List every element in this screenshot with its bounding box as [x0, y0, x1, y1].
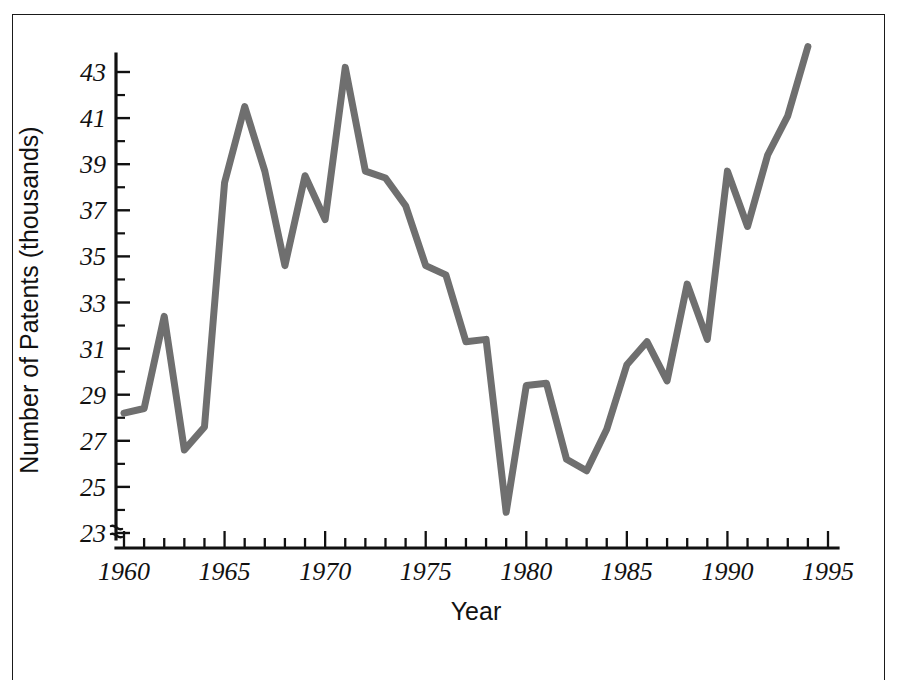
x-tick-label: 1985	[601, 557, 653, 586]
y-tick-label: 41	[80, 104, 106, 133]
y-tick-label: 29	[80, 381, 106, 410]
x-tick-label: 1960	[98, 557, 150, 586]
y-tick-label: 27	[80, 427, 107, 456]
y-tick-label: 23	[80, 519, 106, 548]
series-line-number-of-patents	[124, 47, 808, 513]
y-tick-label: 37	[79, 196, 107, 225]
x-axis-title: Year	[451, 597, 502, 625]
x-tick-label: 1965	[199, 557, 251, 586]
y-axis: 2325272931333537394143	[79, 54, 130, 548]
y-tick-label: 25	[80, 473, 106, 502]
y-tick-label: 39	[79, 150, 106, 179]
y-tick-label: 33	[79, 289, 106, 318]
y-tick-label: 35	[79, 242, 106, 271]
line-chart: 2325272931333537394143 19601965197019751…	[0, 0, 898, 680]
x-axis: 19601965197019751980198519901995	[98, 531, 854, 586]
x-tick-label: 1980	[500, 557, 552, 586]
data-line-series	[124, 47, 808, 513]
x-tick-label: 1970	[299, 557, 351, 586]
x-tick-label: 1975	[400, 557, 452, 586]
x-tick-label: 1990	[701, 557, 753, 586]
y-axis-title: Number of Patents (thousands)	[15, 126, 43, 473]
y-tick-label: 43	[80, 58, 106, 87]
figure-page: 2325272931333537394143 19601965197019751…	[0, 0, 898, 680]
x-tick-label: 1995	[802, 557, 854, 586]
y-tick-label: 31	[79, 335, 106, 364]
